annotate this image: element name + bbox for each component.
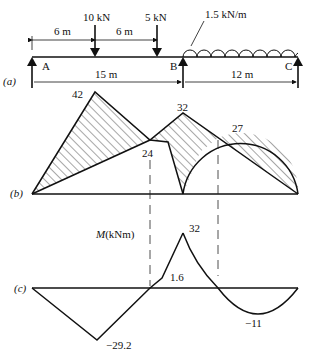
dim-label-15m: 15 m — [95, 68, 118, 80]
support-label-C: C — [285, 60, 292, 72]
load-label-udl: 1.5 kN/m — [205, 8, 247, 20]
value-32: 32 — [177, 101, 188, 113]
continuous-beam-diagram: 6 m 6 m 10 kN 5 kN 1.5 kN/m A B C 15 m 1… — [0, 0, 312, 357]
dim-label-6m-1: 6 m — [54, 25, 71, 37]
support-label-A: A — [42, 60, 50, 72]
moment-superposition-diagram: 42 32 24 27 (b) — [10, 88, 298, 200]
udl-symbol — [183, 50, 298, 57]
value-neg-29-2: −29.2 — [106, 339, 131, 351]
beam-figure: 6 m 6 m 10 kN 5 kN 1.5 kN/m A B C 15 m 1… — [3, 8, 303, 88]
support-label-B: B — [170, 60, 177, 72]
value-neg-11: −11 — [245, 317, 262, 329]
load-label-5kN: 5 kN — [145, 11, 167, 23]
value-24: 24 — [142, 147, 154, 159]
part-label-b: (b) — [10, 187, 23, 200]
bending-moment-diagram: M(kNm) 32 1.6 −29.2 −11 (c) — [14, 222, 298, 351]
part-label-c: (c) — [14, 282, 27, 295]
axis-label: M(kNm) — [95, 228, 135, 241]
value-32: 32 — [189, 222, 200, 234]
value-1-6: 1.6 — [170, 271, 184, 283]
dim-label-12m: 12 m — [231, 68, 254, 80]
part-label-a: (a) — [3, 75, 16, 88]
dim-label-6m-2: 6 m — [116, 25, 133, 37]
value-42: 42 — [72, 88, 83, 100]
value-27: 27 — [232, 122, 244, 134]
load-label-10kN: 10 kN — [83, 11, 110, 23]
